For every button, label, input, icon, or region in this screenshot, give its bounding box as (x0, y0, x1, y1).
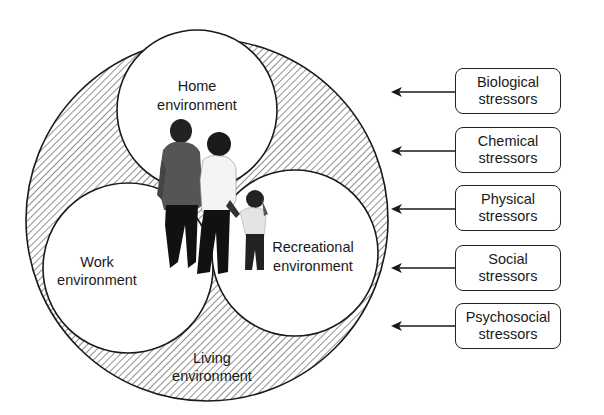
stressor-label-line1: Physical (481, 191, 535, 208)
stressor-label-line2: stressors (479, 91, 538, 108)
arrow-biological (391, 87, 455, 97)
stressor-box-biological: Biological stressors (455, 68, 561, 114)
living-environment-label-line1: Living (193, 350, 231, 366)
work-environment-label-line1: Work (80, 254, 114, 270)
stressor-box-psychosocial: Psychosocial stressors (455, 303, 561, 349)
living-environment-label-line2: environment (172, 368, 252, 384)
stressor-label-line1: Biological (477, 74, 539, 91)
recreational-environment-label-line2: environment (273, 258, 353, 274)
stressor-box-social: Social stressors (455, 245, 561, 291)
stressor-label-line1: Social (488, 251, 528, 268)
stressor-box-chemical: Chemical stressors (455, 127, 561, 173)
recreational-environment-label-line1: Recreational (272, 239, 353, 255)
stressor-label-line2: stressors (479, 208, 538, 225)
stressor-label-line1: Psychosocial (466, 309, 551, 326)
stressor-label-line2: stressors (479, 150, 538, 167)
stressor-arrows (391, 87, 455, 331)
stressor-label-line2: stressors (479, 268, 538, 285)
stressor-label-line2: stressors (479, 326, 538, 343)
home-environment-label-line1: Home (178, 78, 217, 94)
arrow-psychosocial (391, 321, 455, 331)
stressor-label-line1: Chemical (478, 133, 538, 150)
work-environment-label-line2: environment (57, 272, 137, 288)
stressor-box-physical: Physical stressors (455, 185, 561, 231)
arrow-chemical (391, 146, 455, 156)
arrow-social (391, 263, 455, 273)
arrow-physical (391, 204, 455, 214)
home-environment-label-line2: environment (157, 97, 237, 113)
